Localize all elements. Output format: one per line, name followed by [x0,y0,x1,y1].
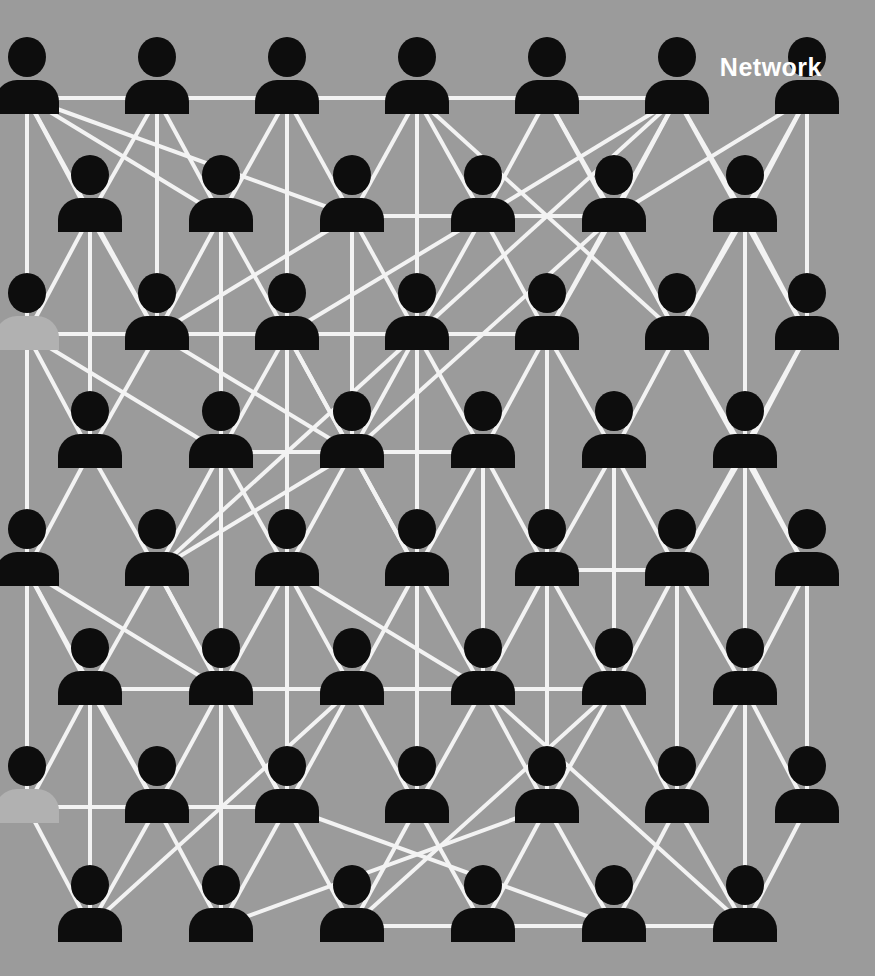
person-head [595,628,633,668]
person-body [189,198,253,232]
person-body [255,789,319,823]
person-body [645,316,709,350]
person-body [255,552,319,586]
person-head [398,37,436,77]
person-body [582,671,646,705]
person-body [58,198,122,232]
person-head [464,391,502,431]
person-head [333,155,371,195]
person-body [255,316,319,350]
person-head [138,746,176,786]
person-head [726,865,764,905]
person-body [713,434,777,468]
person-body [189,434,253,468]
person-body [582,198,646,232]
person-head [138,273,176,313]
person-head [202,391,240,431]
person-head [8,509,46,549]
person-body [713,671,777,705]
person-head [464,865,502,905]
person-body [125,552,189,586]
person-head [333,628,371,668]
person-head [71,391,109,431]
person-head [658,746,696,786]
person-head [658,273,696,313]
person-head [398,746,436,786]
person-head [268,273,306,313]
person-head [71,155,109,195]
person-head [398,273,436,313]
person-head [202,628,240,668]
person-body [582,908,646,942]
person-head [71,865,109,905]
person-head [333,865,371,905]
person-head [398,509,436,549]
person-head [788,509,826,549]
person-body [125,80,189,114]
person-body [775,316,839,350]
person-head [528,746,566,786]
person-body [451,671,515,705]
person-head [268,509,306,549]
person-head [726,628,764,668]
person-body [320,198,384,232]
person-head [726,155,764,195]
person-body [58,434,122,468]
person-body [775,80,839,114]
person-body [385,316,449,350]
person-body [451,434,515,468]
person-head [528,37,566,77]
person-body [189,671,253,705]
person-body [320,434,384,468]
person-body [515,789,579,823]
person-head [658,509,696,549]
person-head [202,865,240,905]
person-body [515,80,579,114]
person-body [775,552,839,586]
person-body [515,552,579,586]
person-head [138,37,176,77]
person-head [464,628,502,668]
person-head [788,273,826,313]
person-body [515,316,579,350]
person-body [125,316,189,350]
person-head [71,628,109,668]
person-head [333,391,371,431]
person-head [726,391,764,431]
person-head [658,37,696,77]
person-head [528,273,566,313]
person-head [788,746,826,786]
person-head [202,155,240,195]
person-head [595,155,633,195]
person-body [713,198,777,232]
person-body [58,671,122,705]
person-head [528,509,566,549]
person-head [8,746,46,786]
person-body [385,552,449,586]
person-body [320,671,384,705]
person-head [595,391,633,431]
person-body [451,198,515,232]
person-body [0,80,59,114]
person-body [645,552,709,586]
person-body [320,908,384,942]
person-body [0,552,59,586]
person-head [268,746,306,786]
person-body [645,789,709,823]
person-body-muted [0,789,59,823]
person-body [775,789,839,823]
person-head [595,865,633,905]
person-head [8,37,46,77]
person-body [125,789,189,823]
person-head [138,509,176,549]
network-canvas: Network [0,0,875,976]
person-body-muted [0,316,59,350]
person-head [464,155,502,195]
person-head [268,37,306,77]
person-body [385,80,449,114]
person-body [255,80,319,114]
person-body [58,908,122,942]
person-head [8,273,46,313]
person-body [645,80,709,114]
person-body [451,908,515,942]
